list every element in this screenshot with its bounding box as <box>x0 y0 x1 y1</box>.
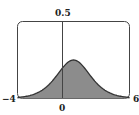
x-max-label: 6 <box>133 95 139 104</box>
y-max-label: 0.5 <box>55 9 71 18</box>
x-min-label: −4 <box>2 95 16 104</box>
x-zero-label: 0 <box>59 104 65 113</box>
